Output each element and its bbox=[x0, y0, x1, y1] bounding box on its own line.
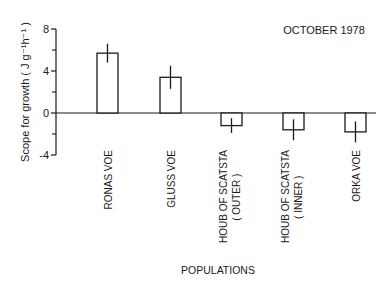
bar-group bbox=[221, 113, 242, 133]
x-tick-label: RONAS VOE bbox=[103, 150, 114, 210]
bar-group bbox=[345, 113, 366, 142]
chart-title: OCTOBER 1978 bbox=[283, 24, 365, 36]
y-axis-label: Scope for growth ( J g⁻¹h⁻¹ ) bbox=[19, 22, 31, 162]
x-tick-label-sub: ( INNER ) bbox=[293, 176, 304, 219]
x-tick-label: GLUSS VOE bbox=[166, 150, 177, 208]
x-tick-labels: RONAS VOEGLUSS VOEHOUB OF SCATSTA( OUTER… bbox=[103, 150, 362, 243]
bar-group bbox=[97, 44, 118, 113]
x-tick-label: HOUB OF SCATSTA bbox=[218, 150, 229, 243]
y-tick-label: 0 bbox=[43, 107, 49, 119]
y-tick-label: -4 bbox=[39, 149, 49, 161]
axes: 840-4 bbox=[39, 23, 376, 161]
bars bbox=[97, 44, 366, 143]
x-tick-label-sub: ( OUTER ) bbox=[231, 174, 242, 221]
bar-group bbox=[160, 66, 181, 113]
bar-chart: 840-4 RONAS VOEGLUSS VOEHOUB OF SCATSTA(… bbox=[0, 0, 383, 289]
x-tick-label: HOUB OF SCATSTA bbox=[280, 150, 291, 243]
y-tick-label: 4 bbox=[43, 65, 49, 77]
x-axis-label: POPULATIONS bbox=[181, 264, 255, 276]
y-tick-label: 8 bbox=[43, 23, 49, 35]
x-tick-label: ORKA VOE bbox=[351, 150, 362, 202]
bar-group bbox=[283, 113, 304, 140]
